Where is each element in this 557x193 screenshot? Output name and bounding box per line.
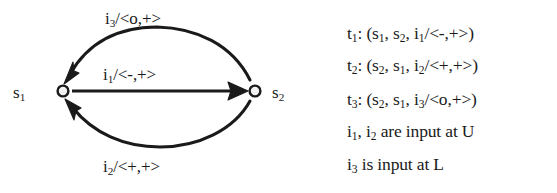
figure-state-transition-diagram: s1 s2 i3/<o,+> i1/<-,+> i2/<+,+> t1: (s1…	[0, 0, 557, 193]
state-node-s2-label: s2	[272, 84, 284, 103]
state-node-s2-marker	[250, 86, 261, 97]
edge-t3-path	[70, 27, 250, 80]
edge-t1-straight	[72, 82, 248, 100]
edge-t1-label: i1/<-,+>	[103, 66, 156, 85]
input-note-lower: i3 is input at L	[347, 151, 552, 183]
transition-line-t2: t2: (s2, s1, i2/<+,+>)	[347, 52, 552, 84]
edge-t2-arc-below	[65, 99, 250, 147]
input-note-upper: i1, i2 are input at U	[347, 118, 552, 150]
state-graph-panel: s1 s2 i3/<o,+> i1/<-,+> i2/<+,+>	[0, 0, 320, 193]
state-node-s1-marker	[58, 86, 69, 97]
edge-t3-label: i3/<o,+>	[105, 10, 161, 29]
edge-t2-path	[73, 101, 250, 147]
transition-list-panel: t1: (s1, s2, i1/<-,+>) t2: (s2, s1, i2/<…	[347, 20, 552, 183]
edge-t2-label: i2/<+,+>	[103, 158, 160, 177]
state-node-s1-label: s1	[13, 84, 25, 103]
edge-t3-arc-above	[64, 27, 250, 84]
edge-t2-arrowhead	[65, 99, 81, 120]
transition-line-t3: t3: (s2, s1, i3/<o,+>)	[347, 86, 552, 118]
transition-line-t1: t1: (s1, s2, i1/<-,+>)	[347, 20, 552, 52]
edge-t1-arrowhead	[228, 82, 248, 100]
